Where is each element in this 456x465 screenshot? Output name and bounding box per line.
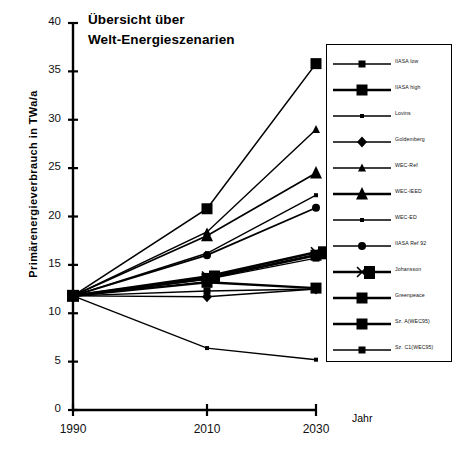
legend-label: IIASA high [395,85,453,91]
legend: IIASA lowIIASA highLovinsGoldembergWEC-R… [326,44,452,362]
x-axis-label: Jahr [352,412,372,424]
legend-label: IIASA low [395,59,453,65]
x-tick-label: 2030 [286,422,346,436]
energy-scenarios-chart: Übersicht über Welt-Energieszenarien Pri… [0,0,456,465]
legend-item[interactable]: IIASA low [327,51,453,77]
legend-label: Greenpeace [395,293,453,299]
legend-item[interactable]: Lovins [327,103,453,129]
legend-item[interactable]: Goldemberg [327,129,453,155]
legend-label: WEC-ED [395,215,453,221]
y-tick-label: 10 [35,305,61,317]
legend-marker-square-tiny-icon [331,207,393,233]
legend-marker-square-small-icon [331,51,393,77]
legend-label: Goldemberg [395,137,453,143]
series-line [73,296,316,360]
legend-label: WEC-Ref [395,163,453,169]
legend-marker-square-tiny-icon [331,103,393,129]
legend-marker-square-large-icon [331,311,393,337]
y-tick-label: 5 [35,354,61,366]
legend-item[interactable]: Sz. C1(WEC95) [327,337,453,363]
legend-item[interactable]: WEC-ED [327,207,453,233]
legend-marker-square-large-icon [331,285,393,311]
legend-item[interactable]: IIASA Ref 92 [327,233,453,259]
legend-label: IIASA Ref 92 [395,241,453,247]
legend-marker-square-small-icon [331,337,393,363]
legend-item[interactable]: Greenpeace [327,285,453,311]
legend-item[interactable]: WEC-IEED [327,181,453,207]
y-tick-label: 35 [35,63,61,75]
legend-item[interactable]: WEC-Ref [327,155,453,181]
legend-label: Sz. A(WEC95) [395,319,453,325]
y-tick-label: 0 [35,402,61,414]
series-line [73,129,316,295]
legend-marker-triangle-large-icon [331,181,393,207]
y-tick-label: 20 [35,209,61,221]
legend-label: Johansson [395,267,453,273]
legend-label: WEC-IEED [395,189,453,195]
legend-marker-triangle-small-icon [331,155,393,181]
series-layer [67,58,329,362]
legend-marker-square-large-icon [331,77,393,103]
x-tick-label: 1990 [43,422,103,436]
legend-marker-diamond-icon [331,129,393,155]
legend-marker-x-square-icon [331,259,393,285]
y-tick-label: 25 [35,160,61,172]
x-tick-label: 2010 [177,422,237,436]
legend-item[interactable]: Sz. A(WEC95) [327,311,453,337]
y-tick-label: 15 [35,257,61,269]
legend-label: Lovins [395,111,453,117]
y-tick-label: 40 [35,15,61,27]
legend-label: Sz. C1(WEC95) [395,345,453,351]
y-tick-label: 30 [35,112,61,124]
legend-marker-circle-icon [331,233,393,259]
legend-item[interactable]: Johansson [327,259,453,285]
legend-item[interactable]: IIASA high [327,77,453,103]
